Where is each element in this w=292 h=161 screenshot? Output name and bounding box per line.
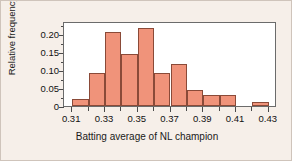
x-axis-tick	[71, 107, 72, 112]
x-axis-tick	[268, 107, 269, 112]
histogram-bars	[64, 23, 275, 106]
x-axis-minor-tick	[186, 107, 187, 111]
y-axis-tick-label: 0.20	[29, 30, 59, 39]
histogram-bar	[89, 73, 105, 106]
x-axis-tick-label: 0.43	[248, 113, 288, 124]
histogram-bar	[220, 95, 236, 106]
x-axis-tick-labels: 0.310.330.350.370.390.410.43	[63, 113, 276, 127]
y-axis-tick-label: 0.10	[29, 66, 59, 75]
x-axis-tick	[202, 107, 203, 112]
histogram-figure: Relative frequency 00.050.100.150.20 0.3…	[0, 0, 292, 161]
x-axis-tick	[170, 107, 171, 112]
x-axis-minor-tick	[120, 107, 121, 111]
histogram-bar	[154, 73, 170, 106]
x-axis-tick	[104, 107, 105, 112]
x-axis-title: Batting average of NL champion	[1, 131, 292, 142]
histogram-bar	[187, 90, 203, 106]
histogram-bar	[252, 102, 268, 106]
y-axis-tick-label: 0.15	[29, 48, 59, 57]
histogram-bar	[121, 54, 137, 106]
x-axis-minor-tick	[219, 107, 220, 111]
y-axis-tick-label: 0	[29, 102, 59, 111]
x-axis-minor-tick	[153, 107, 154, 111]
histogram-bar	[72, 99, 88, 106]
y-axis-title: Relative frequency	[5, 0, 19, 81]
histogram-bar	[105, 32, 121, 106]
x-axis-tick	[235, 107, 236, 112]
x-axis-tick	[137, 107, 138, 112]
histogram-bar	[203, 95, 219, 106]
x-axis-minor-tick	[88, 107, 89, 111]
y-axis-tick-label: 0.05	[29, 84, 59, 93]
plot-area	[63, 22, 276, 107]
histogram-bar	[171, 64, 187, 106]
histogram-bar	[138, 28, 154, 106]
x-axis-minor-tick	[251, 107, 252, 111]
